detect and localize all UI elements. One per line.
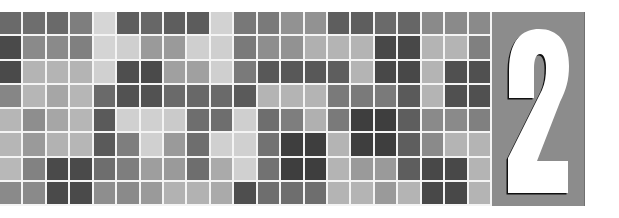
mosaic-tile <box>187 158 209 180</box>
mosaic-tile <box>70 133 92 156</box>
mosaic-tile <box>117 182 139 204</box>
mosaic-tile <box>445 158 467 180</box>
mosaic-tile <box>211 61 232 83</box>
mosaic-tile <box>94 182 115 204</box>
mosaic-tile <box>0 158 21 180</box>
mosaic-tile <box>258 133 279 156</box>
mosaic-tile <box>164 36 185 59</box>
mosaic-tile <box>70 85 92 107</box>
mosaic-tile <box>328 133 349 156</box>
mosaic-tile <box>23 158 45 180</box>
mosaic-tile <box>351 12 373 34</box>
mosaic-tile <box>187 36 209 59</box>
mosaic-tile <box>141 85 162 107</box>
mosaic-tile <box>398 158 420 180</box>
mosaic-tile <box>445 61 467 83</box>
mosaic-tile <box>70 61 92 83</box>
chapter-number-numeral: 2 <box>506 28 572 196</box>
mosaic-tile <box>281 36 303 59</box>
mosaic-tile <box>398 36 420 59</box>
mosaic-tile <box>164 133 185 156</box>
mosaic-tile <box>305 158 326 180</box>
mosaic-tile <box>23 12 45 34</box>
mosaic-tile <box>422 182 443 204</box>
mosaic-tile <box>469 158 490 180</box>
mosaic-tile <box>23 182 45 204</box>
mosaic-tile <box>47 36 68 59</box>
mosaic-tile <box>398 109 420 131</box>
mosaic-tile <box>117 36 139 59</box>
mosaic-tile <box>305 182 326 204</box>
mosaic-tile <box>375 36 396 59</box>
mosaic-tile <box>187 133 209 156</box>
mosaic-tile <box>258 12 279 34</box>
mosaic-tile <box>23 85 45 107</box>
mosaic-tile <box>422 158 443 180</box>
mosaic-tile <box>398 133 420 156</box>
mosaic-tile <box>211 36 232 59</box>
mosaic-tile <box>351 133 373 156</box>
mosaic-tile <box>281 158 303 180</box>
chapter-number-text: 2 <box>506 196 507 197</box>
mosaic-tile <box>117 133 139 156</box>
mosaic-tile <box>258 36 279 59</box>
mosaic-tile <box>422 85 443 107</box>
mosaic-tile <box>211 12 232 34</box>
mosaic-tile <box>234 182 256 204</box>
mosaic-tile <box>70 182 92 204</box>
mosaic-tile <box>398 85 420 107</box>
mosaic-tile <box>305 36 326 59</box>
mosaic-tile <box>164 158 185 180</box>
mosaic-tile <box>234 36 256 59</box>
mosaic-tile <box>422 36 443 59</box>
mosaic-tile <box>234 85 256 107</box>
mosaic-tile <box>164 109 185 131</box>
mosaic-tile <box>187 182 209 204</box>
mosaic-tile <box>187 61 209 83</box>
mosaic-tile <box>445 36 467 59</box>
mosaic-tile <box>70 158 92 180</box>
mosaic-tile <box>375 109 396 131</box>
mosaic-tile <box>0 133 21 156</box>
mosaic-tile <box>328 85 349 107</box>
mosaic-tile <box>94 133 115 156</box>
mosaic-tile <box>281 133 303 156</box>
mosaic-tile <box>47 61 68 83</box>
mosaic-tile <box>281 85 303 107</box>
mosaic-tile <box>141 12 162 34</box>
mosaic-tile <box>94 109 115 131</box>
mosaic-tile <box>328 36 349 59</box>
mosaic-tile <box>445 182 467 204</box>
mosaic-tile <box>398 182 420 204</box>
mosaic-tile <box>23 61 45 83</box>
mosaic-tile <box>375 12 396 34</box>
mosaic-tile <box>141 182 162 204</box>
mosaic-tile <box>117 158 139 180</box>
mosaic-tile <box>328 12 349 34</box>
mosaic-tile <box>23 109 45 131</box>
mosaic-tile <box>47 182 68 204</box>
mosaic-tile <box>94 12 115 34</box>
mosaic-tile <box>187 109 209 131</box>
mosaic-tile <box>0 85 21 107</box>
mosaic-tile <box>422 133 443 156</box>
mosaic-tile <box>422 61 443 83</box>
mosaic-tile <box>328 158 349 180</box>
mosaic-tile <box>211 109 232 131</box>
mosaic-tile <box>422 12 443 34</box>
mosaic-tile <box>234 12 256 34</box>
mosaic-tile <box>23 133 45 156</box>
mosaic-tile <box>94 158 115 180</box>
mosaic-tile <box>398 61 420 83</box>
mosaic-tile <box>445 109 467 131</box>
mosaic-tile <box>47 133 68 156</box>
mosaic-tile <box>445 12 467 34</box>
mosaic-tile <box>305 133 326 156</box>
mosaic-tile <box>445 133 467 156</box>
mosaic-tile <box>187 85 209 107</box>
mosaic-tile <box>281 109 303 131</box>
mosaic-tile <box>328 109 349 131</box>
mosaic-tile <box>211 158 232 180</box>
mosaic-tile <box>258 85 279 107</box>
mosaic-tile <box>70 12 92 34</box>
